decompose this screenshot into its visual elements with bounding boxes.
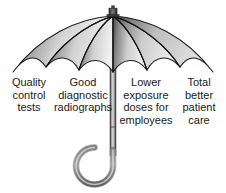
label-line: diagnostic <box>49 89 117 102</box>
label-line: better <box>173 89 225 102</box>
label-good-diagnostic-radiographs: Good diagnostic radiographs <box>49 76 117 114</box>
label-line: exposure <box>115 89 177 102</box>
label-line: Lower <box>115 76 177 89</box>
label-line: patient <box>173 101 225 114</box>
label-line: doses for <box>115 101 177 114</box>
label-line: Good <box>49 76 117 89</box>
label-line: radiographs <box>49 101 117 114</box>
label-lower-exposure-doses-for-employees: Lower exposure doses for employees <box>115 76 177 126</box>
umbrella-figure: Quality control tests Good diagnostic ra… <box>0 0 226 193</box>
label-layer: Quality control tests Good diagnostic ra… <box>0 0 226 193</box>
label-line: employees <box>115 114 177 127</box>
label-line: Total <box>173 76 225 89</box>
label-total-better-patient-care: Total better patient care <box>173 76 225 126</box>
label-line: care <box>173 114 225 127</box>
